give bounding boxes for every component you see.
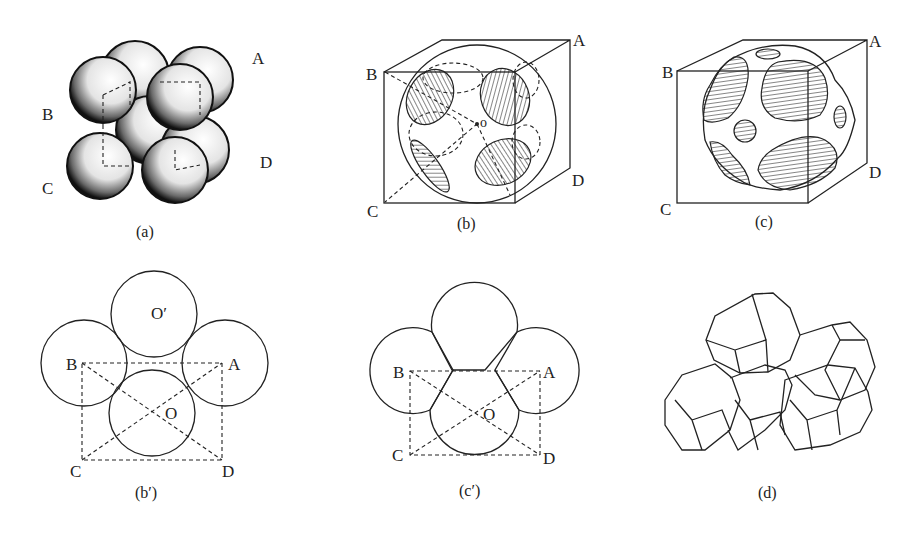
panel-b-prime: O′ A B O C D (b′) [0, 260, 305, 535]
point-label-b: B [42, 106, 53, 123]
caption-c-prime: (c′) [459, 483, 480, 499]
point-label-o: O [165, 405, 177, 422]
panel-c: A B C D (c) [610, 0, 915, 260]
point-label-d: D [572, 172, 584, 189]
point-label-a: A [869, 33, 881, 50]
caption-d: (d) [758, 485, 777, 501]
caption-b: (b) [457, 216, 476, 232]
point-label-c: C [42, 180, 53, 197]
point-label-o: O [483, 406, 495, 423]
panel-c-prime: A B O C D (c′) [305, 260, 610, 535]
point-label-d: D [543, 450, 555, 467]
panel-d: (d) [610, 260, 915, 535]
point-label-b: B [66, 356, 77, 373]
caption-a: (a) [136, 224, 154, 240]
point-label-b: B [662, 64, 673, 81]
point-label-d: D [222, 463, 234, 480]
point-label-c: C [367, 203, 378, 220]
point-label-c: C [70, 463, 81, 480]
packed-spheres-drawing [0, 0, 305, 260]
point-label-o-prime: O′ [151, 305, 167, 322]
panel-b: A B C D o (b) [305, 0, 610, 260]
caption-c: (c) [755, 214, 773, 230]
point-label-c: C [660, 201, 671, 218]
panel-a: A B C D (a) [0, 0, 305, 260]
point-label-o: o [480, 116, 487, 130]
point-label-a: A [228, 356, 240, 373]
point-label-d: D [260, 154, 272, 171]
point-label-a: A [543, 364, 555, 381]
point-label-a: A [252, 50, 264, 67]
point-label-d: D [869, 164, 881, 181]
point-label-a: A [573, 32, 585, 49]
point-label-b: B [393, 364, 404, 381]
point-label-c: C [392, 447, 403, 464]
caption-b-prime: (b′) [135, 485, 157, 501]
overlapping-circles-cross-section [305, 260, 610, 535]
point-label-b: B [366, 66, 377, 83]
